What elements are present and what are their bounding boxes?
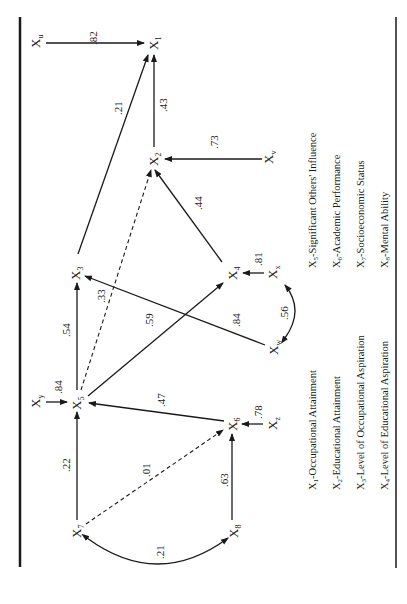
svg-text:X4: X4 bbox=[225, 267, 242, 280]
coef-xv-x2: .73 bbox=[208, 135, 220, 149]
svg-text:Xz: Xz bbox=[265, 417, 282, 430]
coef-xw-x3: .84 bbox=[230, 313, 242, 327]
node-xv: Xv bbox=[261, 151, 278, 164]
edge-x3-x1 bbox=[78, 55, 148, 254]
coef-xw-xx: .56 bbox=[278, 306, 290, 320]
coef-x8-x6: .63 bbox=[218, 473, 230, 487]
node-x4: X4 bbox=[225, 267, 242, 280]
legend-item-x8: X8-Mental Ability bbox=[379, 191, 392, 268]
node-x8: X8 bbox=[226, 525, 243, 538]
svg-text:X7: X7 bbox=[69, 525, 86, 538]
node-xy: Xy bbox=[28, 395, 45, 408]
svg-text:Xv: Xv bbox=[261, 151, 278, 164]
coef-x4-x2: .44 bbox=[192, 196, 204, 210]
coef-x2-x1: .43 bbox=[157, 98, 169, 112]
coef-xu-x1: .82 bbox=[87, 31, 99, 45]
legend-item-x7: X7-Socioeconomic Status bbox=[355, 160, 368, 268]
edge-x7-x6 bbox=[86, 430, 223, 524]
node-x3: X3 bbox=[68, 267, 85, 280]
coef-x7-x6: .01 bbox=[140, 463, 152, 477]
edge-x5-x4 bbox=[88, 283, 223, 396]
coef-x5-x2: .33 bbox=[95, 289, 107, 303]
legend-item-x3: X3-Level of Occupational Aspiration bbox=[355, 334, 368, 490]
node-xx: Xx bbox=[265, 266, 282, 279]
coef-x7-x8: .21 bbox=[154, 545, 166, 559]
svg-text:X3: X3 bbox=[68, 267, 85, 280]
coef-x5-x3: .54 bbox=[60, 323, 72, 337]
legend-left: X1-Occupational Attainment X2-Educationa… bbox=[307, 334, 392, 490]
node-x6: X6 bbox=[225, 418, 242, 431]
svg-text:X8: X8 bbox=[226, 525, 243, 538]
coef-x3-x1: .21 bbox=[112, 101, 124, 115]
coef-xy-x5: .84 bbox=[52, 380, 64, 394]
legend-item-x5: X5-Significant Others' Influence bbox=[307, 132, 320, 268]
node-x5: X5 bbox=[69, 397, 86, 410]
legend-item-x4: X4-Level of Educational Aspiration bbox=[379, 340, 392, 490]
edge-xw-x3 bbox=[85, 276, 265, 345]
node-xz: Xz bbox=[265, 417, 282, 430]
svg-text:Xw: Xw bbox=[266, 340, 283, 355]
svg-text:X6: X6 bbox=[225, 418, 242, 431]
node-x7: X7 bbox=[69, 525, 86, 538]
coef-x5-x4: .59 bbox=[143, 313, 155, 327]
node-xw: Xw bbox=[266, 340, 283, 355]
svg-text:X2: X2 bbox=[146, 153, 163, 166]
legend-item-x2: X2-Educational Attainment bbox=[331, 376, 344, 490]
path-diagram: Xu X1 X2 Xv X3 X4 Xx Xw X5 Xy X6 Xz X7 X… bbox=[0, 0, 407, 604]
legend-item-x1: X1-Occupational Attainment bbox=[307, 370, 320, 490]
coef-xx-x4: .81 bbox=[252, 252, 264, 266]
svg-text:X5: X5 bbox=[69, 397, 86, 410]
svg-text:X1: X1 bbox=[146, 37, 163, 50]
coef-xz-x6: .78 bbox=[252, 405, 264, 419]
svg-text:Xx: Xx bbox=[265, 266, 282, 279]
coef-x7-x5: .22 bbox=[60, 458, 72, 472]
svg-text:Xy: Xy bbox=[28, 395, 45, 408]
edge-x5-x2 bbox=[81, 170, 151, 390]
node-xu: Xu bbox=[28, 35, 45, 48]
svg-text:Xu: Xu bbox=[28, 35, 45, 48]
coef-x6-x5: .47 bbox=[155, 393, 167, 407]
legend-item-x6: X6-Academic Performance bbox=[331, 154, 344, 268]
node-x2: X2 bbox=[146, 153, 163, 166]
node-x1: X1 bbox=[146, 37, 163, 50]
legend-right: X5-Significant Others' Influence X6-Acad… bbox=[307, 132, 392, 268]
edge-x4-x2 bbox=[155, 170, 222, 262]
